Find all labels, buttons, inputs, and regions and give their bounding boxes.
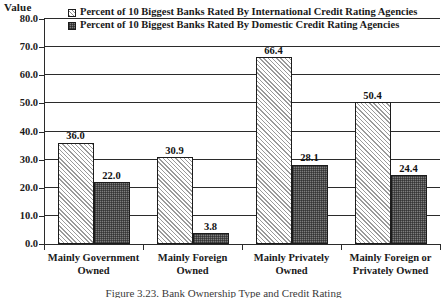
- gridline: [44, 74, 440, 75]
- bar: 24.4: [391, 175, 427, 244]
- y-axis-tick-mark: [39, 103, 44, 104]
- y-axis-tick-label: 20.0: [0, 183, 38, 194]
- y-axis-tick-mark: [39, 132, 44, 133]
- x-axis-tick-mark: [341, 244, 342, 250]
- bar-value-label: 36.0: [66, 131, 84, 142]
- y-axis-title: Value: [4, 1, 32, 13]
- y-axis-tick-label: 0.0: [0, 239, 38, 250]
- bar-value-label: 30.9: [165, 146, 183, 157]
- plot-area: 36.030.966.450.422.03.828.124.4: [44, 19, 440, 244]
- bar: 3.8: [193, 233, 229, 244]
- x-axis-category-label: Mainly ForeignOwned: [143, 252, 242, 277]
- bar: 36.0: [58, 143, 94, 244]
- x-axis-tick-mark: [440, 244, 441, 250]
- bar-value-label: 3.8: [204, 222, 217, 233]
- category-label-line: Mainly Foreign or: [341, 252, 440, 265]
- bar-value-label: 66.4: [264, 46, 282, 57]
- y-axis-tick-label: 80.0: [0, 14, 38, 25]
- category-label-line: Owned: [242, 265, 341, 278]
- category-label-line: Owned: [143, 265, 242, 278]
- bar-value-label: 24.4: [399, 164, 417, 175]
- legend-label-domestic: Percent of 10 Biggest Banks Rated By Dom…: [80, 20, 399, 31]
- category-label-line: Mainly Privately: [242, 252, 341, 265]
- bar: 22.0: [94, 182, 130, 244]
- x-axis-category-labels: Mainly GovernmentOwnedMainly ForeignOwne…: [44, 252, 441, 286]
- bar: 28.1: [292, 165, 328, 244]
- x-axis-category-label: Mainly Foreign orPrivately Owned: [341, 252, 440, 277]
- x-axis-tick-mark: [143, 244, 144, 250]
- bar: 66.4: [256, 57, 292, 244]
- bar: 50.4: [355, 102, 391, 244]
- legend-label-international: Percent of 10 Biggest Banks Rated By Int…: [80, 7, 417, 18]
- y-axis-tick-mark: [39, 216, 44, 217]
- y-axis-tick-mark: [39, 75, 44, 76]
- x-axis-category-label: Mainly PrivatelyOwned: [242, 252, 341, 277]
- legend-item-international: Percent of 10 Biggest Banks Rated By Int…: [68, 6, 417, 19]
- chart-legend: Percent of 10 Biggest Banks Rated By Int…: [68, 6, 417, 32]
- bar: 30.9: [157, 157, 193, 244]
- y-axis-tick-label: 40.0: [0, 127, 38, 138]
- y-axis-tick-label: 10.0: [0, 211, 38, 222]
- y-axis-line: [44, 19, 45, 245]
- bar-value-label: 22.0: [102, 171, 120, 182]
- y-axis-tick-mark: [39, 160, 44, 161]
- y-axis-tick-label: 70.0: [0, 42, 38, 53]
- category-label-line: Mainly Foreign: [143, 252, 242, 265]
- y-axis-tick-mark: [39, 188, 44, 189]
- legend-swatch-icon-domestic: [68, 22, 76, 30]
- y-axis-tick-label: 60.0: [0, 70, 38, 81]
- bar-value-label: 28.1: [300, 153, 318, 164]
- category-label-line: Owned: [44, 265, 143, 278]
- legend-swatch-icon-international: [68, 9, 76, 17]
- x-axis-tick-mark: [242, 244, 243, 250]
- y-axis-tick-label: 50.0: [0, 98, 38, 109]
- y-axis-tick-label: 30.0: [0, 155, 38, 166]
- category-label-line: Mainly Government: [44, 252, 143, 265]
- gridline: [44, 46, 440, 47]
- x-axis-category-label: Mainly GovernmentOwned: [44, 252, 143, 277]
- category-label-line: Privately Owned: [341, 265, 440, 278]
- y-axis-tick-mark: [39, 19, 44, 20]
- bar-value-label: 50.4: [363, 91, 381, 102]
- legend-item-domestic: Percent of 10 Biggest Banks Rated By Dom…: [68, 19, 417, 32]
- bar-chart: Value 36.030.966.450.422.03.828.124.4 0.…: [0, 0, 447, 298]
- x-axis-tick-mark: [44, 244, 45, 250]
- y-axis-tick-mark: [39, 47, 44, 48]
- figure-caption: Figure 3.23. Bank Ownership Type and Cre…: [0, 287, 447, 298]
